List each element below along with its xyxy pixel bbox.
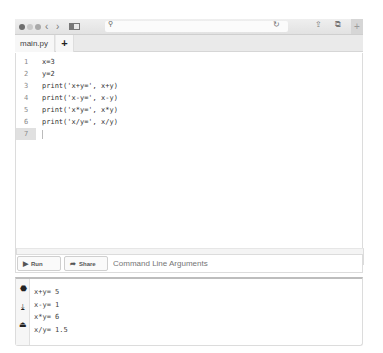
code-text[interactable]: y=2	[42, 68, 55, 80]
output-line: x/y= 1.5	[34, 325, 68, 335]
show-tabs-icon[interactable]: ⧉	[335, 20, 341, 30]
new-browser-tab-icon[interactable]: +	[351, 19, 363, 34]
line-number: 1	[16, 56, 36, 68]
search-icon: ⚲	[108, 20, 113, 28]
output-sidebar: ⬣ ⤓ ⏏	[16, 279, 30, 345]
browser-toolbar: ‹ › ⚲ ↻ ⇪ ⧉ +	[15, 19, 363, 35]
share-page-icon[interactable]: ⇪	[315, 20, 322, 29]
code-text[interactable]: print('x+y=', x+y)	[42, 80, 118, 92]
run-label: Run	[31, 261, 43, 267]
line-number: 7	[16, 128, 36, 140]
console-output: ⬣ ⤓ ⏏ x+y= 5 x-y= 1 x*y= 6 x/y= 1.5	[15, 277, 363, 346]
output-line: x*y= 6	[34, 312, 59, 322]
line-number: 3	[16, 80, 36, 92]
command-line-arguments-input[interactable]	[113, 256, 358, 271]
minimize-window-button[interactable]	[27, 24, 33, 30]
close-window-button[interactable]	[19, 24, 25, 30]
share-button[interactable]: ➦Share	[64, 256, 108, 271]
maximize-window-button[interactable]	[35, 24, 41, 30]
code-line[interactable]: 6 print('x/y=', x/y)	[16, 116, 356, 128]
add-file-button[interactable]: +	[56, 35, 74, 52]
line-number: 5	[16, 104, 36, 116]
code-text[interactable]: print('x/y=', x/y)	[42, 116, 118, 128]
run-button[interactable]: ▶Run	[17, 256, 61, 271]
tab-main-py[interactable]: main.py	[15, 35, 55, 52]
download-icon[interactable]: ⤓	[19, 303, 27, 311]
forward-icon[interactable]: ›	[56, 20, 59, 34]
code-text[interactable]: print('x-y=', x-y)	[42, 92, 118, 104]
code-text[interactable]: x=3	[42, 56, 55, 68]
share-label: Share	[79, 261, 96, 267]
text-cursor	[42, 130, 43, 139]
sidebar-toggle-icon[interactable]	[69, 23, 80, 30]
file-tab-bar: main.py +	[15, 35, 363, 52]
line-number: 2	[16, 68, 36, 80]
share-arrow-icon: ➦	[70, 260, 76, 267]
line-number: 6	[16, 116, 36, 128]
play-icon: ▶	[23, 260, 28, 267]
code-line[interactable]: 5 print('x*y=', x*y)	[16, 104, 356, 116]
code-line[interactable]: 1 x=3	[16, 56, 356, 68]
output-line: x-y= 1	[34, 300, 59, 310]
code-editor[interactable]: 1 x=3 2 y=2 3 print('x+y=', x+y) 4 print…	[15, 53, 363, 266]
stop-icon[interactable]: ⬣	[19, 285, 27, 293]
line-number: 4	[16, 92, 36, 104]
address-bar[interactable]: ⚲ ↻	[105, 21, 288, 32]
output-line: x+y= 5	[34, 287, 59, 297]
run-toolbar: ▶Run ➦Share	[15, 254, 363, 273]
back-icon[interactable]: ‹	[45, 20, 48, 34]
reload-icon[interactable]: ↻	[273, 20, 280, 29]
upload-icon[interactable]: ⏏	[19, 321, 27, 329]
code-line[interactable]: 2 y=2	[16, 68, 356, 80]
code-line[interactable]: 4 print('x-y=', x-y)	[16, 92, 356, 104]
code-line[interactable]: 3 print('x+y=', x+y)	[16, 80, 356, 92]
code-text[interactable]: print('x*y=', x*y)	[42, 104, 118, 116]
code-line-active[interactable]: 7	[16, 128, 356, 140]
